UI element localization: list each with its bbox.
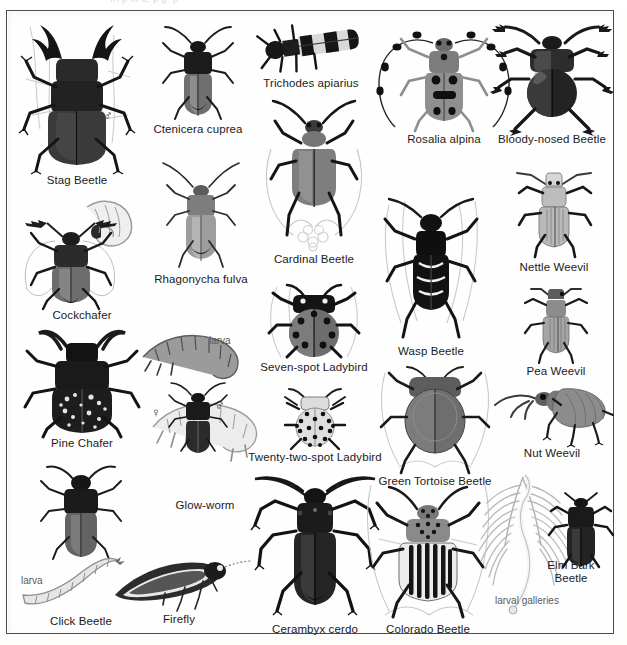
seven-spot-ladybird-illustration <box>247 283 381 361</box>
nettle-weevil-illustration <box>501 169 607 261</box>
trichodes-apiarius-caption: Trichodes apiarius <box>251 77 371 90</box>
specimen-rhagonycha-fulva[interactable]: Rhagonycha fulva <box>147 161 255 286</box>
wasp-beetle-caption: Wasp Beetle <box>365 345 497 358</box>
specimen-bloody-nosed-beetle[interactable]: Bloody-nosed Beetle <box>491 21 613 146</box>
specimen-cardinal-beetle[interactable]: Cardinal Beetle <box>253 95 375 266</box>
plate-frame: ♂ Stag Beetle <box>6 10 614 634</box>
colorado-beetle-caption: Colorado Beetle <box>355 623 501 636</box>
wasp-beetle-illustration <box>365 197 497 345</box>
green-tortoise-beetle-illustration <box>365 367 505 475</box>
trichodes-apiarius-illustration <box>251 17 371 77</box>
specimen-elm-bark-beetle[interactable]: larval galleries Elm Bark Beetle <box>469 463 617 619</box>
specimen-pea-weevil[interactable]: Pea Weevil <box>505 287 607 378</box>
specimen-nettle-weevil[interactable]: Nettle Weevil <box>501 169 607 274</box>
firefly-illustration: ♂ <box>107 551 251 613</box>
glow-worm-larva-label: larva <box>209 335 231 346</box>
specimen-ctenicera-cuprea[interactable]: Ctenicera cuprea <box>145 25 251 136</box>
larval-galleries-label: larval galleries <box>495 595 559 606</box>
nut-weevil-caption: Nut Weevil <box>489 447 615 460</box>
specimen-cockchafer[interactable]: Cockchafer <box>21 197 143 322</box>
elm-bark-beetle-caption: Elm Bark Beetle <box>531 559 611 585</box>
cardinal-beetle-caption: Cardinal Beetle <box>253 253 375 266</box>
pea-weevil-illustration <box>505 287 607 365</box>
elm-bark-beetle-illustration: larval galleries <box>469 463 617 619</box>
click-beetle-larva-label: larva <box>21 575 43 586</box>
rhagonycha-fulva-illustration <box>147 161 255 273</box>
nut-weevil-illustration <box>489 381 615 447</box>
bloody-nosed-beetle-caption: Bloody-nosed Beetle <box>491 133 613 146</box>
specimen-stag-beetle[interactable]: ♂ Stag Beetle <box>17 19 137 187</box>
specimen-wasp-beetle[interactable]: Wasp Beetle <box>365 197 497 358</box>
specimen-col2-male-beetle: ♂ <box>157 381 247 457</box>
specimen-nut-weevil[interactable]: Nut Weevil <box>489 381 615 460</box>
cockchafer-illustration <box>21 197 143 309</box>
small-dark-beetle-illustration: ♂ <box>157 381 247 457</box>
specimen-trichodes-apiarius[interactable]: Trichodes apiarius <box>251 17 371 90</box>
stag-beetle-illustration: ♂ <box>18 19 136 174</box>
pea-weevil-caption: Pea Weevil <box>505 365 607 378</box>
nettle-weevil-caption: Nettle Weevil <box>501 261 607 274</box>
stag-beetle-caption: Stag Beetle <box>17 174 137 187</box>
specimen-firefly[interactable]: ♂ Firefly <box>107 551 251 626</box>
firefly-caption: Firefly <box>107 613 251 626</box>
ctenicera-cuprea-illustration <box>145 25 251 123</box>
rhagonycha-fulva-caption: Rhagonycha fulva <box>147 273 255 286</box>
beetle-plate: tri p m a, p g. p <box>0 0 627 645</box>
larval-galleries-art <box>479 475 568 614</box>
scan-ghost-text: tri p m a, p g. p <box>110 0 179 4</box>
stag-beetle-sex-symbol: ♂ <box>103 109 113 122</box>
col2-male-sex-symbol: ♂ <box>215 399 225 412</box>
seven-spot-ladybird-caption: Seven-spot Ladybird <box>247 361 381 374</box>
cardinal-beetle-illustration <box>253 95 375 253</box>
scan-top-strip: tri p m a, p g. p <box>0 0 627 10</box>
specimen-seven-spot-ladybird[interactable]: Seven-spot Ladybird <box>247 283 381 374</box>
bloody-nosed-beetle-illustration <box>491 21 613 133</box>
ctenicera-cuprea-caption: Ctenicera cuprea <box>145 123 251 136</box>
